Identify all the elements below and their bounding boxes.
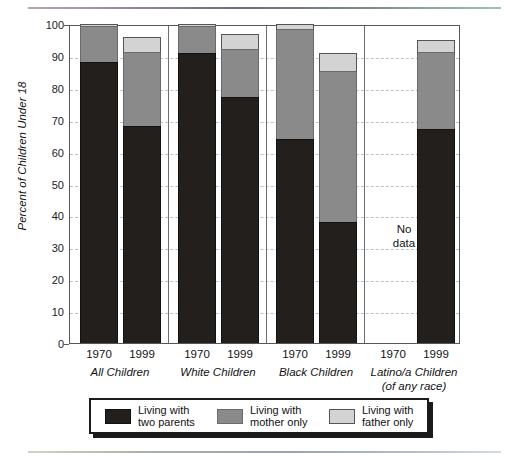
legend-shadow-bottom [93,434,433,438]
x-label-latino-1999: 1999 [408,348,464,360]
y-tick-20: 20 [34,274,64,286]
bar-all-children-1999-segment-mother-only [123,53,161,126]
bar-black-children-1999-segment-two-parents [319,222,357,343]
x-label-white-1999: 1999 [212,348,268,360]
bar-black-children-1970-segment-mother-only [276,30,314,138]
no-data-line-1: No [376,222,432,236]
bar-all-children-1999[interactable] [123,37,161,343]
y-axis-ticks: 100 90 80 70 60 50 40 30 20 10 0 [30,25,64,344]
y-tick-90: 90 [34,51,64,63]
bar-black-children-1999[interactable] [319,53,357,343]
bar-white-children-1999[interactable] [221,34,259,343]
bar-all-children-1970-segment-mother-only [80,27,118,62]
y-tick-50: 50 [34,179,64,191]
y-tick-10: 10 [34,306,64,318]
bar-black-children-1999-segment-mother-only [319,72,357,222]
y-tick-80: 80 [34,83,64,95]
legend-item-mother-only[interactable]: Living with mother only [203,404,315,429]
x-label-all-1999: 1999 [114,348,170,360]
plot-area: No data [69,25,460,344]
legend-item-father-only[interactable]: Living with father only [315,404,427,429]
legend-label-two-parents: Living with two parents [138,404,195,429]
bar-all-children-1970[interactable] [80,24,118,343]
y-tick-60: 60 [34,147,64,159]
legend-label-father-only: Living with father only [362,404,413,429]
bar-black-children-1999-segment-father-only [319,53,357,72]
group-separator-1 [168,26,169,343]
y-tick-40: 40 [34,210,64,222]
bar-white-children-1999-segment-mother-only [221,50,259,98]
legend-swatch-two-parents-icon [105,409,131,424]
chart-legend: Living with two parents Living with moth… [89,398,429,434]
x-group-latino-children: Latino/a Children (of any race) [344,365,484,393]
legend-swatch-father-only-icon [329,409,355,424]
bar-white-children-1970-segment-mother-only [178,27,216,53]
bar-white-children-1999-segment-father-only [221,34,259,50]
legend-item-two-parents[interactable]: Living with two parents [91,404,203,429]
no-data-annotation: No data [376,222,432,250]
y-tick-0: 0 [34,338,64,350]
bar-white-children-1970-segment-two-parents [178,53,216,343]
bar-white-children-1999-segment-two-parents [221,97,259,343]
group-separator-3 [364,26,365,343]
y-tick-30: 30 [34,242,64,254]
bar-latino-children-1999-segment-mother-only [417,53,455,130]
x-label-black-1999: 1999 [310,348,366,360]
y-tick-100: 100 [34,19,64,31]
bar-black-children-1970[interactable] [276,24,314,343]
legend-swatch-mother-only-icon [217,409,243,424]
bar-black-children-1970-segment-two-parents [276,139,314,343]
y-tick-70: 70 [34,115,64,127]
bar-all-children-1999-segment-father-only [123,37,161,53]
no-data-line-2: data [376,236,432,250]
legend-label-mother-only: Living with mother only [250,404,307,429]
y-axis-title: Percent of Children Under 18 [16,16,28,296]
y-tick-mark-0 [64,344,69,345]
decorative-rule-bottom [28,451,501,453]
bar-all-children-1999-segment-two-parents [123,126,161,343]
group-separator-2 [266,26,267,343]
bar-all-children-1970-segment-two-parents [80,62,118,343]
x-group-latino-line-2: (of any race) [344,379,484,393]
chart-page: Percent of Children Under 18 100 90 80 7… [0,0,509,461]
legend-shadow-right [429,402,433,438]
x-group-latino-line-1: Latino/a Children [344,365,484,379]
bar-latino-children-1999[interactable] [417,40,455,343]
decorative-rule-top [28,7,501,9]
bar-white-children-1970[interactable] [178,24,216,343]
bar-latino-children-1999-segment-father-only [417,40,455,53]
